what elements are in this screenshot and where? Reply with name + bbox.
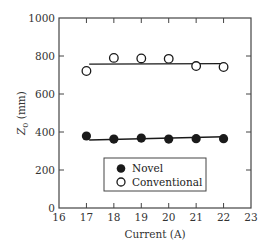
x-axis-title: Current (A) bbox=[124, 228, 185, 240]
y-tick-label: 200 bbox=[35, 164, 55, 176]
data-point-novel bbox=[192, 134, 201, 143]
legend-label-conventional: Conventional bbox=[132, 176, 203, 188]
y-axis-title-unit: (mm) bbox=[15, 91, 27, 122]
data-point-conventional bbox=[192, 62, 201, 71]
data-point-conventional bbox=[110, 54, 119, 63]
data-point-conventional bbox=[219, 63, 228, 72]
x-tick-label: 20 bbox=[162, 211, 175, 223]
x-tick-label: 23 bbox=[244, 211, 257, 223]
fit-line-conventional bbox=[89, 64, 223, 65]
x-tick-label: 17 bbox=[80, 211, 93, 223]
x-tick-label: 22 bbox=[217, 211, 230, 223]
data-point-conventional bbox=[82, 67, 91, 76]
data-point-novel bbox=[137, 133, 146, 142]
data-point-conventional bbox=[164, 55, 173, 64]
y-tick-label: 1000 bbox=[28, 12, 55, 24]
x-tick-label: 21 bbox=[189, 211, 202, 223]
x-tick-label: 16 bbox=[52, 211, 66, 223]
chart: 02004006008001000 1617181920212223 Curre… bbox=[0, 0, 267, 250]
legend-label-novel: Novel bbox=[132, 162, 164, 174]
data-point-novel bbox=[164, 134, 173, 143]
y-tick-label: 600 bbox=[35, 88, 55, 100]
y-axis-title: Z0 (mm) bbox=[15, 91, 30, 136]
x-tick-label: 19 bbox=[135, 211, 148, 223]
x-axis: 1617181920212223 bbox=[52, 18, 257, 223]
data-point-conventional bbox=[137, 54, 146, 63]
data-point-novel bbox=[109, 134, 118, 143]
legend: Novel Conventional bbox=[104, 158, 206, 191]
y-tick-label: 400 bbox=[35, 126, 55, 138]
data-point-novel bbox=[219, 134, 228, 143]
y-tick-label: 800 bbox=[35, 50, 55, 62]
legend-open-circle-icon bbox=[117, 178, 125, 186]
fit-lines bbox=[89, 64, 223, 140]
data-points bbox=[82, 54, 228, 144]
x-tick-label: 18 bbox=[107, 211, 120, 223]
legend-filled-circle-icon bbox=[117, 164, 126, 173]
data-point-novel bbox=[82, 131, 91, 140]
